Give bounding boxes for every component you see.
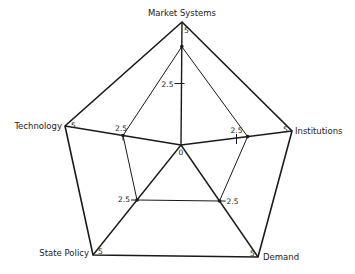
data-point [218, 199, 222, 203]
tick-label-institutions-max: 5 [283, 125, 288, 134]
series-polygon [123, 47, 248, 201]
axis-labels: 2.52.52.52.52.5055555Market SystemsInsti… [13, 8, 343, 262]
tick-label-demand-mid: 2.5 [227, 197, 239, 206]
axis-label-market-systems: Market Systems [148, 8, 217, 18]
tick-label-institutions-mid: 2.5 [231, 126, 243, 135]
tick-label-market-mid: 2.5 [162, 80, 174, 89]
outer-pentagon [65, 22, 292, 257]
tick-label-demand-max: 5 [250, 249, 255, 258]
tick-label-state-policy-mid: 2.5 [118, 195, 130, 204]
data-point [246, 135, 250, 139]
data-point [180, 45, 184, 49]
radar-chart: 2.52.52.52.52.5055555Market SystemsInsti… [0, 0, 355, 274]
data-series [121, 45, 249, 203]
axis-label-demand: Demand [263, 252, 299, 262]
axis-label-state-policy: State Policy [39, 248, 89, 258]
center-zero-label: 0 [179, 148, 184, 157]
tick-label-market-max: 5 [184, 26, 189, 35]
tick-label-technology-mid: 2.5 [115, 124, 127, 133]
axis-label-technology: Technology [13, 121, 62, 131]
axis-label-institutions: Institutions [295, 126, 343, 136]
tick-label-state-policy-max: 5 [98, 247, 103, 256]
tick-marks [123, 84, 237, 202]
outer-pentagon-shape [65, 22, 292, 257]
axis-spokes [65, 22, 292, 257]
tick-label-technology-max: 5 [71, 121, 76, 130]
data-point [121, 134, 125, 138]
data-point [135, 198, 139, 202]
